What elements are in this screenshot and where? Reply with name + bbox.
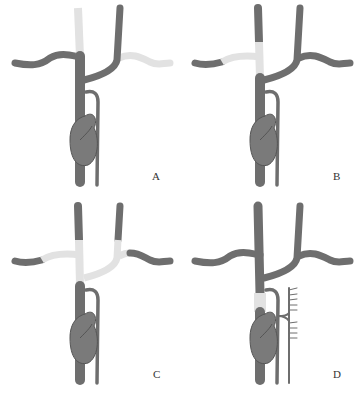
panel-b: B (180, 0, 360, 199)
panel-label-a: A (152, 170, 160, 182)
panel-label-c: C (153, 368, 160, 380)
panel-a: A (0, 0, 180, 199)
panel-c: C (0, 198, 180, 397)
panel-label-d: D (333, 368, 341, 380)
panel-label-b: B (333, 170, 340, 182)
panel-d: D (180, 198, 360, 397)
